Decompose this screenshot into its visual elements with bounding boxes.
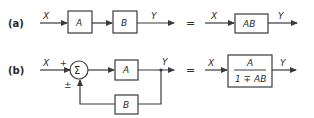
b-sigma-symbol: Σ [74, 65, 80, 76]
b-block-B-label: B [123, 100, 129, 110]
b-block-A-label: A [122, 65, 129, 75]
b-equals-sign: = [186, 64, 195, 77]
b-eq-output-label: Y [280, 58, 287, 68]
a-eq-input-label: X [210, 11, 218, 21]
block-diagram-figure: (a) X A B Y = X AB Y (b) X + Σ ± A B Y =… [0, 0, 314, 118]
b-feedback-path-in [80, 80, 115, 104]
b-feedback-sign: ± [64, 80, 72, 90]
a-input-label: X [42, 11, 50, 21]
a-output-label: Y [151, 11, 158, 21]
a-block-A-label: A [75, 18, 82, 28]
a-block-AB-label: AB [242, 19, 255, 29]
a-block-B-label: B [121, 18, 127, 28]
b-feedback-path-out [138, 70, 161, 104]
b-numerator-label: A [246, 58, 253, 68]
b-plus-sign: + [60, 59, 67, 68]
part-a-label: (a) [8, 18, 24, 29]
b-input-label: X [42, 58, 50, 68]
b-eq-input-label: X [207, 58, 215, 68]
b-takeoff-point [159, 68, 162, 71]
a-eq-output-label: Y [278, 11, 285, 21]
b-output-label: Y [162, 57, 169, 67]
a-equals-sign: = [186, 17, 195, 30]
part-b-label: (b) [8, 65, 24, 76]
b-denominator-label: 1 ∓ AB [235, 74, 266, 84]
